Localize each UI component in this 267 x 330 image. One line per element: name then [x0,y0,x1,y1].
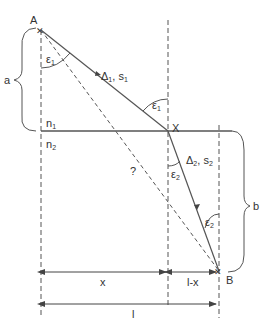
dimension-a-label: a [4,74,11,86]
svg-text:✕: ✕ [36,26,44,36]
point-B-label: B [226,274,233,286]
direct-path [41,30,219,271]
point-X-label: X [172,122,180,134]
angle-arc-eps2-X [168,161,180,166]
dimension-b-label: b [253,200,259,212]
arrow-icon [194,204,200,210]
refraction-diagram: ✕ ✕ A X B n1 n2 ε1 ε1 ε2 ε2 Δ1, s1 Δ2, s… [0,0,267,330]
angle-eps1-X-label: ε1 [152,99,161,112]
brace-b [228,131,250,272]
medium-n1-label: n1 [46,117,56,130]
direct-path-label: ? [130,165,136,177]
segment-2-label: Δ2, s2 [186,154,213,167]
angle-eps2-X-label: ε2 [171,168,180,181]
dimension-l-minus-x-label: l-x [187,276,199,288]
angle-eps2-B-label: ε2 [205,216,214,229]
dimension-l-label: l [132,308,134,320]
point-A-label: A [30,14,38,26]
brace-a [14,28,36,131]
dimension-x-label: x [100,276,106,288]
segment-1-label: Δ1, s1 [101,70,128,83]
medium-n2-label: n2 [46,138,56,151]
ray-segment-2 [168,131,219,271]
angle-eps1-A-label: ε1 [46,53,55,66]
